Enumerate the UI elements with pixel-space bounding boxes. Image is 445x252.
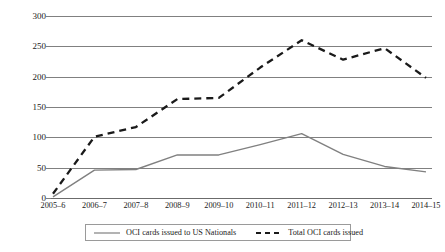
legend-dashed-line-icon [256, 228, 282, 238]
y-tick-label: 250 [18, 41, 46, 51]
y-tick-mark [46, 137, 51, 138]
x-tick-label: 2005–6 [30, 200, 76, 212]
x-tick-label: 2008–9 [154, 200, 200, 212]
y-tick-label: 150 [18, 102, 46, 112]
y-tick-mark [46, 16, 51, 17]
y-tick-label: 50 [18, 163, 46, 173]
y-tick-mark [46, 198, 51, 199]
legend-solid-line-icon [94, 228, 120, 238]
x-tick-label: 2007–8 [113, 200, 159, 212]
legend-label-total: Total OCI cards issued [288, 228, 363, 238]
x-axis-tick-labels: 2005–62006–72007–82008–92009–102010–1120… [51, 200, 432, 214]
legend-entry-us-nationals: OCI cards issued to US Nationals [94, 225, 236, 240]
y-tick-label: 100 [18, 132, 46, 142]
legend-label-us-nationals: OCI cards issued to US Nationals [126, 228, 236, 238]
y-tick-label: 200 [18, 72, 46, 82]
y-tick-mark [46, 46, 51, 47]
legend-entry-total: Total OCI cards issued [256, 225, 363, 240]
x-tick-label: 2011–12 [279, 200, 325, 212]
chart-legend: OCI cards issued to US Nationals Total O… [85, 224, 351, 241]
x-tick-label: 2006–7 [71, 200, 117, 212]
y-tick-label: 300 [18, 11, 46, 21]
gridline [51, 198, 432, 199]
x-tick-label: 2010–11 [237, 200, 283, 212]
plot-area [51, 16, 432, 198]
series-line-us-nationals [53, 134, 426, 197]
y-axis-tick-labels: 300250200150100500 [14, 16, 46, 198]
x-tick-label: 2009–10 [196, 200, 242, 212]
y-tick-mark [46, 168, 51, 169]
series-layer [51, 16, 432, 198]
x-tick-label: 2012–13 [320, 200, 366, 212]
y-tick-mark [46, 77, 51, 78]
x-tick-label: 2013–14 [362, 200, 408, 212]
series-line-total [53, 40, 426, 193]
y-tick-mark [46, 107, 51, 108]
x-tick-label: 2014–15 [403, 200, 445, 212]
